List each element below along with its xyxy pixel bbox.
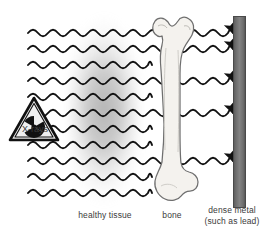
radiation-hazard-triangle-icon [8,96,60,142]
dense-metal-label: dense metal (such as lead) [196,205,268,227]
dense-metal-bar [233,16,246,208]
dense-metal-label-line1: dense metal [208,205,255,215]
femur-bone-shape [153,17,198,200]
bone-label: bone [152,210,192,221]
xrays-label: X-rays [0,124,70,134]
xray-penetration-diagram: X-rays healthy tissue bone dense metal (… [0,0,268,232]
healthy-tissue-label: healthy tissue [66,210,144,221]
dense-metal-label-line2: (such as lead) [205,216,260,226]
